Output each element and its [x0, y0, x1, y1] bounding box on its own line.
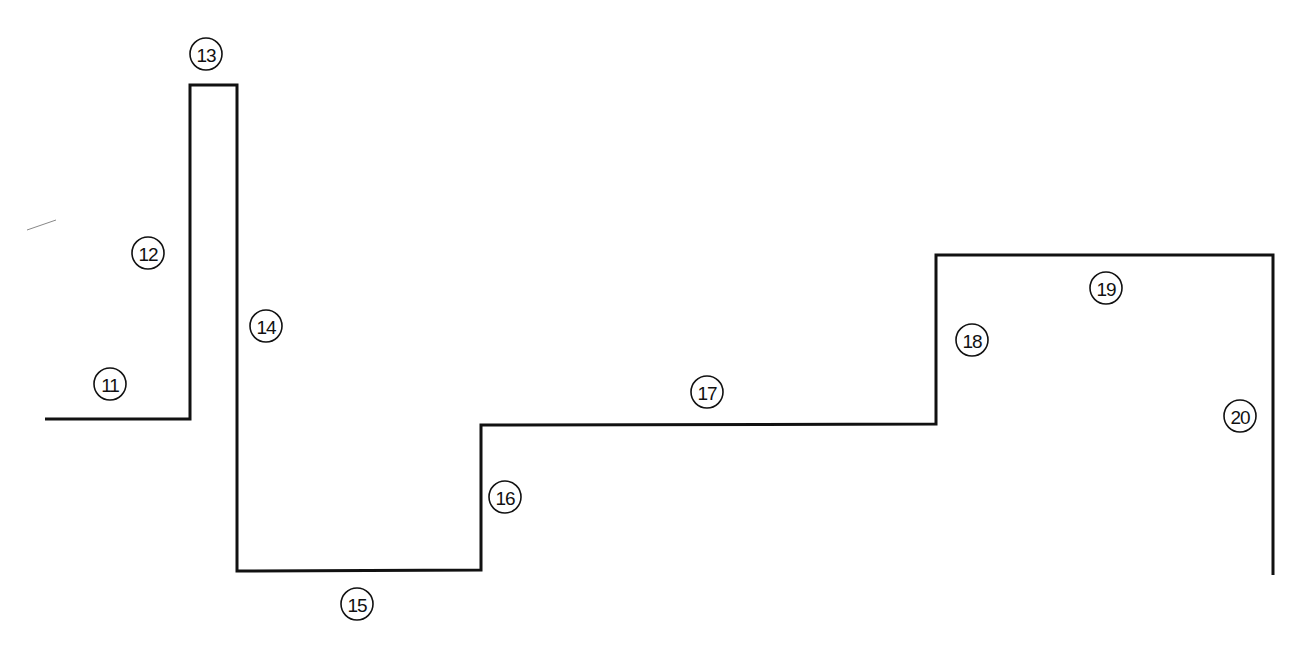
- stepped-profile-diagram: 11121314151617181920: [0, 0, 1310, 649]
- segment-number: 18: [962, 331, 982, 352]
- profile-outline: [45, 85, 1273, 575]
- segment-number: 16: [495, 488, 515, 509]
- segment-number: 17: [697, 383, 717, 404]
- segment-number: 19: [1096, 279, 1116, 300]
- segment-number: 20: [1230, 407, 1250, 428]
- segment-label-15: 15: [341, 588, 373, 620]
- segment-number: 15: [347, 595, 367, 616]
- segment-label-17: 17: [691, 376, 723, 408]
- segment-label-11: 11: [94, 368, 126, 400]
- segment-number: 13: [196, 45, 216, 66]
- segment-label-12: 12: [132, 237, 164, 269]
- segment-label-14: 14: [250, 310, 282, 342]
- segment-number: 12: [138, 244, 158, 265]
- stray-pencil-mark: [27, 220, 56, 230]
- segment-labels: 11121314151617181920: [94, 38, 1256, 620]
- segment-number: 11: [101, 375, 119, 396]
- segment-label-13: 13: [190, 38, 222, 70]
- segment-label-19: 19: [1090, 272, 1122, 304]
- segment-label-16: 16: [489, 481, 521, 513]
- segment-label-20: 20: [1224, 400, 1256, 432]
- segment-label-18: 18: [956, 324, 988, 356]
- segment-number: 14: [256, 317, 277, 338]
